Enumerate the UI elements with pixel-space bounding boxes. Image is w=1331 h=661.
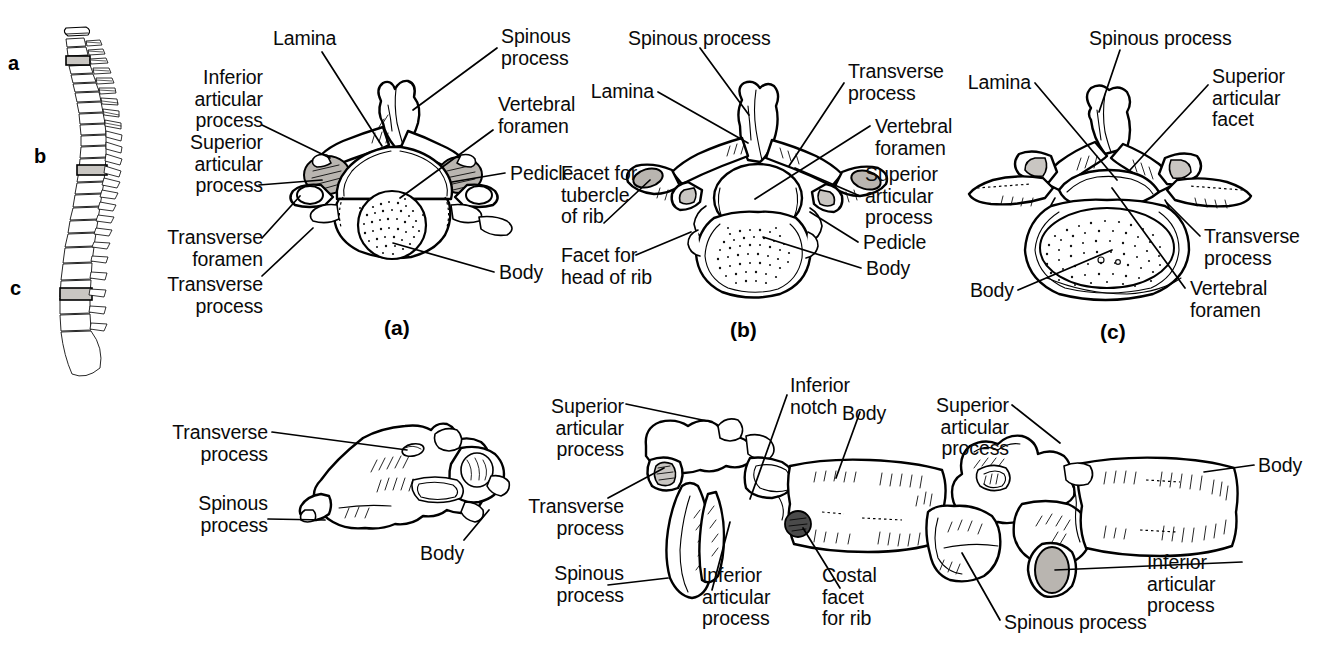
label-inferior-articular-process-f: Inferior articular process <box>1147 552 1215 617</box>
panel-caption-c: (c) <box>1100 320 1126 344</box>
transverse-foramen-left <box>297 186 323 204</box>
spine-highlight-lumbar <box>60 288 92 300</box>
spine-marker-a: a <box>8 52 19 75</box>
panel-d-cervical-lateral <box>285 418 535 553</box>
label-transverse-foramen-a: Transverse foramen <box>143 227 263 270</box>
label-inferior-articular-process-e: Inferior articular process <box>702 565 770 630</box>
label-body-b: Body <box>866 258 910 280</box>
body-cancellous-region-c <box>1040 208 1174 288</box>
label-lamina-c: Lamina <box>943 72 1031 94</box>
label-facet-tubercle-of-rib-b: Facet for tubercle of rib <box>561 163 637 228</box>
label-transverse-process-b: Transverse process <box>848 61 944 104</box>
label-spinous-process-b: Spinous process <box>628 28 771 50</box>
label-costal-facet-for-rib-e: Costal facet for rib <box>822 565 877 630</box>
label-transverse-process-c: Transverse process <box>1204 226 1300 269</box>
label-spinous-process-d: Spinous process <box>150 493 268 536</box>
label-facet-head-of-rib-b: Facet for head of rib <box>561 245 652 288</box>
label-body-d: Body <box>420 543 464 565</box>
label-transverse-process-d: Transverse process <box>148 422 268 465</box>
label-spinous-process-a: Spinous process <box>501 26 571 69</box>
panel-caption-a: (a) <box>384 316 410 340</box>
label-superior-articular-process-a: Superior articular process <box>145 132 263 197</box>
label-superior-articular-process-f: Superior articular process <box>893 395 1009 460</box>
inferior-articular-facet-f <box>1035 547 1069 593</box>
transverse-foramen-right <box>466 186 492 204</box>
label-transverse-process-a: Transverse process <box>143 274 263 317</box>
label-body-f: Body <box>1258 455 1302 477</box>
label-lamina-a: Lamina <box>273 28 336 50</box>
label-inferior-notch-e: Inferior notch <box>790 375 850 418</box>
label-pedicle-b: Pedicle <box>863 232 926 254</box>
body-cancellous-region <box>358 191 426 259</box>
label-superior-articular-facet-c: Superior articular facet <box>1212 66 1285 131</box>
label-body-c: Body <box>952 280 1014 302</box>
panel-caption-b: (b) <box>730 318 757 342</box>
spine-marker-c: c <box>10 277 21 300</box>
label-superior-articular-process-b: Superior articular process <box>865 164 938 229</box>
label-transverse-process-e: Transverse process <box>506 496 624 539</box>
label-lamina-b: Lamina <box>562 81 654 103</box>
spine-svg <box>42 22 142 387</box>
spine-highlight-thoracic <box>77 165 107 175</box>
label-vertebral-foramen-c: Vertebral foramen <box>1190 278 1267 321</box>
label-vertebral-foramen-b: Vertebral foramen <box>875 116 952 159</box>
label-body-a: Body <box>499 262 543 284</box>
spine-marker-b: b <box>34 145 46 168</box>
label-spinous-process-e: Spinous process <box>506 563 624 606</box>
label-inferior-articular-process-a: Inferior articular process <box>145 67 263 132</box>
label-body-e: Body <box>842 403 886 425</box>
label-superior-articular-process-e: Superior articular process <box>508 396 624 461</box>
cervical-lateral-svg <box>285 418 535 553</box>
label-spinous-process-f: Spinous process <box>1004 612 1147 634</box>
spine-highlight-cervical <box>66 56 90 65</box>
spine-illustration <box>42 22 142 387</box>
label-spinous-process-c: Spinous process <box>1089 28 1232 50</box>
